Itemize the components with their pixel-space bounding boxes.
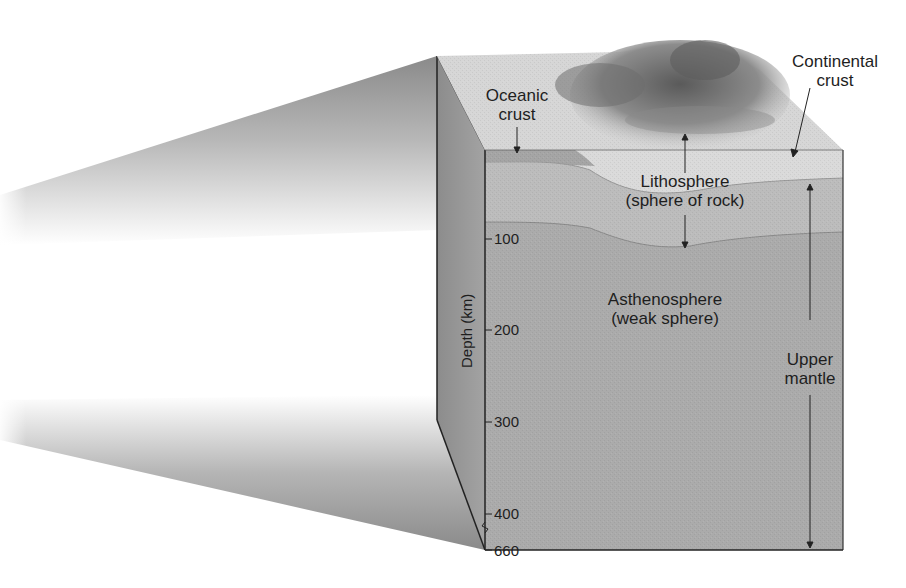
- zoom-beam: [0, 56, 485, 560]
- axis-title-depth: Depth (km): [458, 294, 475, 368]
- tick-label-300: 300: [494, 414, 519, 430]
- tick-label-100: 100: [494, 231, 519, 247]
- label-upper-mantle: Upper mantle: [770, 350, 850, 388]
- tick-label-400: 400: [494, 506, 519, 522]
- label-asthenosphere: Asthenosphere (weak sphere): [580, 290, 750, 328]
- label-lithosphere: Lithosphere (sphere of rock): [605, 172, 765, 210]
- tick-label-660: 660: [494, 543, 519, 559]
- tick-label-200: 200: [494, 322, 519, 338]
- label-continental-crust: Continental crust: [775, 52, 895, 90]
- label-oceanic-crust: Oceanic crust: [462, 86, 572, 124]
- block-diagram-graphic: [0, 0, 906, 588]
- earth-layers-diagram: Oceanic crust Continental crust Lithosph…: [0, 0, 906, 588]
